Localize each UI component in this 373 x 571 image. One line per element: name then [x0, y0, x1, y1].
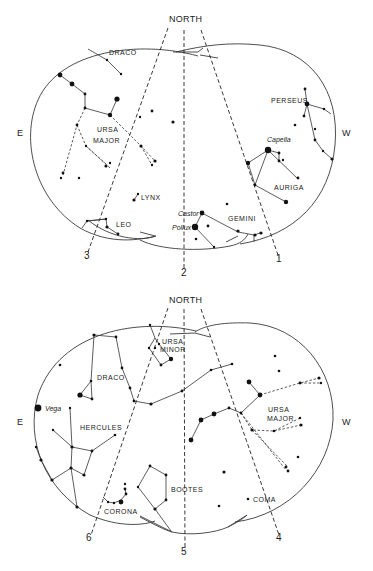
- guide-number-3: 3: [84, 250, 90, 261]
- constellation-ursa-major: URSA MAJOR: [58, 73, 175, 180]
- label-corona: CORONA: [104, 508, 138, 515]
- star-label-vega: Vega: [45, 405, 61, 413]
- constellation-corona: CORONA: [103, 483, 138, 515]
- east-label: E: [17, 417, 23, 427]
- label-ursa-minor-line1: URSA: [162, 338, 183, 345]
- label-draco: DRACO: [97, 374, 125, 381]
- west-label: W: [342, 417, 351, 427]
- star-label-capella: Capella: [267, 136, 291, 144]
- label-ursa-major-line1: URSA: [268, 406, 289, 413]
- star-charts: NORTH 1 2 3 E W DRACO: [0, 0, 373, 571]
- label-ursa-major-line2: MAJOR: [267, 415, 294, 422]
- constellation-lynx: LYNX: [132, 193, 160, 202]
- sky-outline-junction: [173, 48, 218, 58]
- star-chart-svg: NORTH 1 2 3 E W DRACO: [0, 0, 373, 571]
- guide-line-6: [91, 308, 168, 535]
- label-leo: LEO: [116, 221, 132, 228]
- sky-outline-junction: [170, 333, 210, 337]
- label-gemini: GEMINI: [228, 215, 256, 222]
- constellation-ursa-major: URSA MAJOR: [189, 355, 323, 473]
- constellation-hercules: HERCULES: [35, 407, 122, 509]
- label-ursa-major-line2: MAJOR: [93, 137, 120, 144]
- star-label-pollux: Pollux: [172, 224, 192, 231]
- star-vega: Vega: [35, 405, 62, 413]
- label-draco: DRACO: [109, 49, 137, 56]
- guide-number-5: 5: [181, 546, 187, 557]
- label-hercules: HERCULES: [80, 424, 122, 431]
- star-label-castor: Castor: [178, 210, 199, 217]
- west-label: W: [342, 128, 351, 138]
- guide-line-1: [201, 30, 279, 258]
- label-auriga: AURIGA: [274, 184, 304, 191]
- sky-outline-left: [31, 49, 198, 240]
- label-ursa-minor-line2: MINOR: [160, 346, 186, 353]
- label-lynx: LYNX: [141, 194, 161, 201]
- constellation-gemini: GEMINI Castor Pollux: [172, 203, 263, 249]
- sky-outline-junction-lower: [140, 232, 238, 242]
- label-coma: COMA: [253, 496, 276, 503]
- north-label: NORTH: [169, 295, 202, 305]
- bottom-star-chart: NORTH 4 5 6 E W URSA MINOR: [17, 295, 351, 557]
- constellation-auriga: AURIGA Capella: [246, 136, 304, 204]
- label-ursa-major-line1: URSA: [97, 126, 118, 133]
- constellation-draco: DRACO: [88, 49, 137, 75]
- label-bootes: BOOTES: [171, 486, 203, 493]
- sky-outline-junction-lower: [140, 515, 247, 532]
- label-perseus: PERSEUS: [271, 97, 308, 104]
- constellation-coma: COMA: [218, 470, 276, 507]
- constellation-ursa-minor: URSA MINOR: [148, 324, 186, 367]
- guide-number-1: 1: [276, 253, 282, 264]
- top-star-chart: NORTH 1 2 3 E W DRACO: [17, 14, 351, 278]
- guide-number-2: 2: [181, 267, 187, 278]
- constellation-perseus: PERSEUS: [271, 88, 334, 161]
- north-label: NORTH: [169, 14, 202, 24]
- east-label: E: [17, 128, 23, 138]
- sky-outline-bottom: [140, 234, 248, 249]
- guide-number-4: 4: [276, 532, 282, 543]
- constellation-draco: DRACO: [59, 333, 234, 405]
- guide-number-6: 6: [86, 532, 92, 543]
